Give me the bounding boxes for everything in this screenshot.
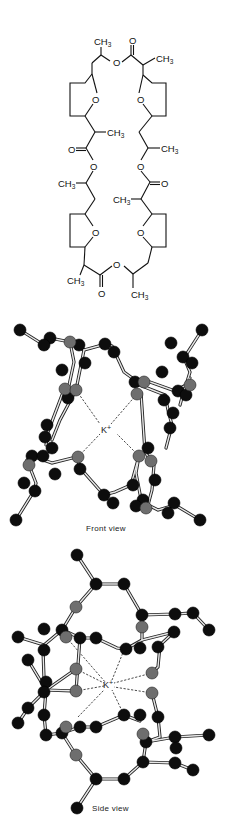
potassium-ion-label: K+ [103, 679, 113, 690]
structural-formula: CH3 O O CH3 O O CH3 O CH3 O O CH3 O CH3 … [58, 35, 179, 301]
front-view-caption: Front view [86, 524, 126, 533]
side-view-model: K+ Side view [12, 549, 215, 814]
methyl-label: CH3 [67, 275, 85, 287]
oxygen-label: O [113, 259, 120, 270]
oxygen-label: O [92, 94, 99, 105]
methyl-label: CH3 [131, 289, 149, 301]
oxygen-label: O [137, 227, 144, 238]
oxygen-label: O [92, 227, 99, 238]
potassium-ion-label: K+ [101, 424, 111, 435]
oxygen-label: O [161, 178, 168, 189]
methyl-label: CH3 [161, 143, 179, 155]
front-view-model: K+ Front view [10, 324, 208, 533]
methyl-label: CH3 [156, 53, 174, 65]
methyl-label: CH3 [113, 194, 131, 206]
oxygen-label: O [68, 144, 75, 155]
methyl-label: CH3 [94, 36, 112, 48]
methyl-label: CH3 [107, 127, 125, 139]
oxygen-label: O [137, 94, 144, 105]
oxygen-label: O [98, 288, 105, 299]
oxygen-label: O [113, 57, 120, 68]
side-carbon-atoms [12, 549, 215, 814]
figure-canvas: CH3 O O CH3 O O CH3 O CH3 O O CH3 O CH3 … [0, 0, 226, 834]
methyl-label: CH3 [58, 178, 76, 190]
oxygen-label: O [90, 161, 97, 172]
oxygen-label: O [137, 161, 144, 172]
oxygen-label: O [129, 35, 136, 46]
side-view-caption: Side view [92, 804, 129, 813]
